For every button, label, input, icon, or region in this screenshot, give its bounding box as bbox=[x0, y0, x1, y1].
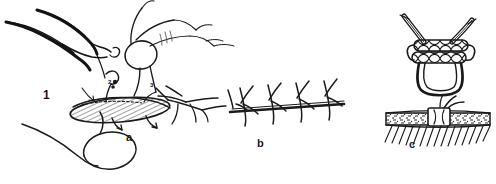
callout-label-2: 2 bbox=[108, 79, 111, 85]
callout-label-3: 3 bbox=[150, 82, 153, 88]
callout-1-leader bbox=[82, 88, 94, 101]
incision-knot bbox=[428, 108, 450, 126]
panel-b bbox=[228, 79, 344, 126]
suture-technique-illustration bbox=[0, 0, 496, 184]
closed-incision bbox=[385, 95, 490, 146]
wound-ellipse bbox=[69, 94, 171, 127]
panel-c bbox=[385, 15, 490, 146]
knot-loop bbox=[417, 63, 462, 95]
panel-a bbox=[6, 1, 234, 169]
figure-container: a b c 1 2 3 bbox=[0, 0, 496, 184]
panel-label-a: a bbox=[126, 132, 132, 143]
tissue-hatching bbox=[385, 126, 490, 146]
hand-holding-forceps bbox=[122, 1, 234, 96]
panel-label-c: c bbox=[409, 139, 415, 150]
surgeons-knot bbox=[407, 40, 475, 63]
needle-holder bbox=[6, 10, 120, 78]
callout-label-1: 1 bbox=[43, 89, 50, 101]
panel-label-b: b bbox=[257, 138, 264, 149]
knot-free-ends bbox=[400, 15, 476, 42]
